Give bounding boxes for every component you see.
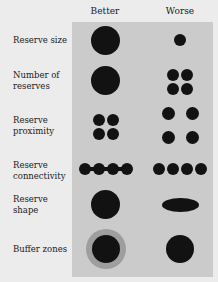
row-label-number-of-reserves: Number of reserves: [13, 70, 73, 92]
row-label-reserve-connectivity: Reserve connectivity: [13, 160, 73, 182]
column-header-worse: Worse: [150, 6, 210, 16]
row-label-reserve-shape: Reserve shape: [13, 194, 73, 216]
unbuffered-reserve-icon: [166, 235, 194, 263]
elongated-reserve-icon: [162, 198, 199, 212]
row-label-buffer-zones: Buffer zones: [13, 244, 73, 255]
large-reserve-icon: [91, 26, 120, 55]
buffered-reserve-icon: [92, 235, 120, 263]
row-label-reserve-proximity: Reserve proximity: [13, 115, 73, 137]
round-reserve-icon: [91, 190, 120, 219]
small-reserve-icon: [174, 34, 186, 46]
column-header-better: Better: [75, 6, 135, 16]
row-label-reserve-size: Reserve size: [13, 35, 73, 46]
single-reserve-icon: [91, 66, 120, 95]
